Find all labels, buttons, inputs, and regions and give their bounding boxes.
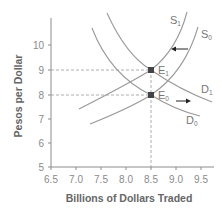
demand-curve-d0	[92, 28, 200, 116]
label-e1: E1	[158, 64, 169, 77]
label-d1: D1	[201, 83, 213, 96]
y-tick-9: 9	[38, 65, 44, 76]
y-tick-5: 5	[38, 162, 44, 173]
equilibrium-point-e1	[148, 67, 154, 73]
x-tick-8-0: 8.0	[119, 174, 133, 185]
y-tick-6: 6	[38, 138, 44, 149]
y-tick-labels: 10 9 8 7 6 5	[33, 40, 45, 173]
equilibrium-point-e0	[148, 92, 154, 98]
label-s0: S0	[201, 28, 212, 41]
y-tick-7: 7	[38, 114, 44, 125]
supply-demand-chart: 10 9 8 7 6 5 6.5 7.0 7.5 8.0 8.5 9.0 9.5…	[0, 0, 222, 208]
x-tick-9-0: 9.0	[169, 174, 183, 185]
x-tick-8-5: 8.5	[144, 174, 158, 185]
demand-shift-arrow	[176, 99, 191, 104]
x-axis-title: Billions of Dollars Traded	[66, 192, 193, 204]
x-tick-9-5: 9.5	[194, 174, 208, 185]
label-s1: S1	[170, 14, 181, 27]
x-tick-labels: 6.5 7.0 7.5 8.0 8.5 9.0 9.5	[44, 174, 208, 185]
x-tick-7-0: 7.0	[69, 174, 83, 185]
y-tick-8: 8	[38, 90, 44, 101]
x-tick-6-5: 6.5	[44, 174, 58, 185]
supply-curve-s1	[79, 12, 187, 109]
x-tick-7-5: 7.5	[94, 174, 108, 185]
label-d0: D0	[186, 114, 198, 127]
y-axis-title: Pesos per Dollar	[12, 55, 24, 138]
supply-curve-s0	[90, 27, 198, 124]
y-tick-10: 10	[33, 40, 45, 51]
reference-lines	[51, 70, 151, 167]
supply-shift-arrow	[171, 47, 188, 52]
label-e0: E0	[158, 89, 169, 102]
